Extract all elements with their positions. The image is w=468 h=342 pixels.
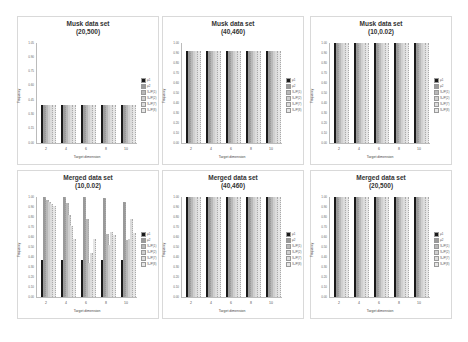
- legend-label: S₁/P(1): [292, 90, 302, 94]
- x-tick-label: 8: [246, 147, 256, 151]
- chart-panel-4: Merged data set(10,0.02)0.000.100.200.30…: [17, 170, 159, 319]
- legend-label: S₁/P(2): [440, 250, 450, 254]
- chart-title-line2: (20,500): [18, 28, 158, 36]
- x-axis-label: Target dimension: [330, 309, 430, 313]
- bar: [93, 105, 96, 143]
- y-tick-label: 0.80: [166, 215, 179, 219]
- chart-title-line2: (20,500): [311, 182, 451, 190]
- bar: [113, 235, 116, 297]
- chart-title: Musk data set(40,460): [163, 20, 303, 36]
- legend-swatch-icon: [434, 102, 439, 107]
- plot-area: 0.000.100.200.300.400.500.600.700.800.90…: [329, 43, 430, 144]
- y-axis-label: Frequency: [17, 243, 21, 257]
- x-tick-label: 10: [414, 301, 424, 305]
- legend-swatch-icon: [434, 244, 439, 249]
- legend-item: S₁/P(8): [141, 261, 159, 267]
- legend-swatch-icon: [434, 232, 439, 237]
- legend-label: S₁/P(1): [147, 244, 157, 248]
- legend-label: S₁/P(8): [292, 108, 302, 112]
- legend-label: μ2: [440, 84, 443, 88]
- y-tick-label: 0.50: [166, 91, 179, 95]
- chart-title-line1: Merged data set: [163, 174, 303, 182]
- bar: [73, 239, 76, 297]
- y-tick-label: 0.60: [166, 81, 179, 85]
- y-tick-label: 0.50: [314, 245, 327, 249]
- chart-title-line2: (40,460): [163, 182, 303, 190]
- y-tick-label: 0.90: [166, 51, 179, 55]
- y-tick-label: 0.10: [166, 131, 179, 135]
- y-tick-label: 0.00: [21, 141, 34, 145]
- x-tick-label: 2: [186, 147, 196, 151]
- legend-label: S₁/P(7): [292, 256, 302, 260]
- x-tick-label: 4: [354, 147, 364, 151]
- legend-swatch-icon: [141, 102, 146, 107]
- x-axis-label: Target dimension: [330, 155, 430, 159]
- bar: [426, 43, 429, 143]
- y-tick-label: 0.70: [166, 225, 179, 229]
- bar: [238, 197, 241, 297]
- x-tick-label: 4: [206, 147, 216, 151]
- bar: [406, 43, 409, 143]
- bar: [366, 43, 369, 143]
- y-tick-label: 0.30: [166, 111, 179, 115]
- x-tick-label: 2: [334, 301, 344, 305]
- x-tick-label: 6: [374, 147, 384, 151]
- x-tick-label: 6: [81, 301, 91, 305]
- x-tick-label: 8: [394, 147, 404, 151]
- y-tick-label: 0.75: [21, 69, 34, 73]
- x-tick-label: 10: [266, 147, 276, 151]
- x-tick-label: 10: [414, 147, 424, 151]
- y-tick-label: 0.45: [21, 98, 34, 102]
- legend-label: S₁/P(2): [147, 250, 157, 254]
- legend-label: S₁/P(7): [147, 256, 157, 260]
- legend-label: μ2: [292, 238, 295, 242]
- y-tick-label: 0.30: [21, 112, 34, 116]
- chart-title: Merged data set(10,0.02): [18, 174, 158, 190]
- bar: [218, 51, 221, 143]
- legend-swatch-icon: [434, 90, 439, 95]
- x-tick-label: 6: [81, 147, 91, 151]
- chart-panel-6: Merged data set(20,500)0.000.100.200.300…: [310, 170, 452, 319]
- legend-item: S₁/P(8): [434, 107, 452, 113]
- legend-label: μ1: [292, 232, 295, 236]
- x-tick-label: 10: [121, 301, 131, 305]
- y-tick-label: 0.00: [314, 141, 327, 145]
- x-tick-label: 2: [186, 301, 196, 305]
- bar: [278, 197, 281, 297]
- legend-label: S₁/P(1): [440, 90, 450, 94]
- x-tick-label: 4: [61, 147, 71, 151]
- legend-label: S₁/P(8): [292, 262, 302, 266]
- chart-title-line1: Musk data set: [18, 20, 158, 28]
- legend-swatch-icon: [286, 262, 291, 267]
- chart-title: Merged data set(20,500): [311, 174, 451, 190]
- bar: [386, 43, 389, 143]
- chart-panel-3: Musk data set(10,0.02)0.000.100.200.300.…: [310, 16, 452, 165]
- legend-label: S₁/P(2): [292, 250, 302, 254]
- y-tick-label: 0.60: [314, 235, 327, 239]
- legend-label: S₁/P(7): [147, 102, 157, 106]
- legend-swatch-icon: [434, 256, 439, 261]
- y-axis-label: Frequency: [162, 89, 166, 103]
- legend-swatch-icon: [141, 96, 146, 101]
- y-tick-label: 0.60: [21, 83, 34, 87]
- plot-area: 0.000.100.200.300.400.500.600.700.800.90…: [36, 197, 137, 298]
- legend-label: μ1: [440, 78, 443, 82]
- chart-title-line1: Merged data set: [311, 174, 451, 182]
- legend-swatch-icon: [141, 250, 146, 255]
- x-tick-label: 8: [394, 301, 404, 305]
- y-tick-label: 0.90: [314, 51, 327, 55]
- y-tick-label: 0.70: [314, 225, 327, 229]
- y-tick-label: 0.60: [166, 235, 179, 239]
- y-tick-label: 0.20: [314, 121, 327, 125]
- y-tick-label: 1.00: [166, 195, 179, 199]
- legend-swatch-icon: [286, 232, 291, 237]
- y-tick-label: 0.40: [314, 101, 327, 105]
- y-tick-label: 0.70: [166, 71, 179, 75]
- bar: [278, 51, 281, 143]
- y-tick-label: 1.00: [314, 41, 327, 45]
- chart-panel-2: Musk data set(40,460)0.000.100.200.300.4…: [162, 16, 304, 165]
- legend-swatch-icon: [141, 90, 146, 95]
- bar: [366, 197, 369, 297]
- y-tick-label: 0.80: [314, 61, 327, 65]
- bar: [258, 197, 261, 297]
